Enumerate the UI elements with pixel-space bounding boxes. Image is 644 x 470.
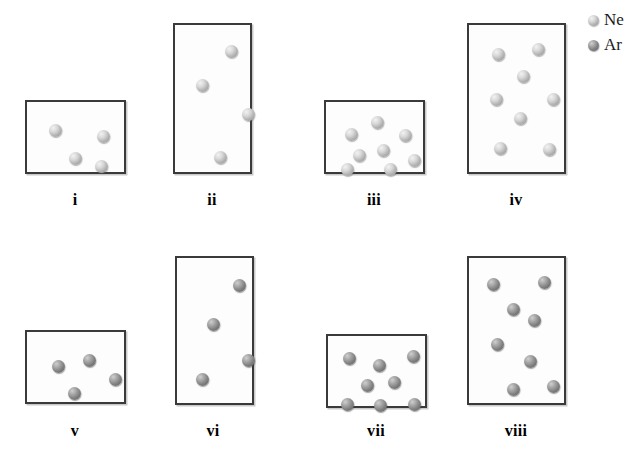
- particle-ar: [507, 303, 520, 316]
- particle-ne: [97, 130, 110, 143]
- particle-ne: [532, 43, 545, 56]
- particle-ar: [207, 318, 220, 331]
- particle-ar: [528, 314, 541, 327]
- particle-ne: [345, 128, 358, 141]
- particle-ne: [341, 163, 354, 176]
- particle-ne: [95, 160, 108, 173]
- particle-ar: [388, 376, 401, 389]
- particle-ar: [524, 355, 537, 368]
- container-label-ii: ii: [182, 192, 242, 208]
- particle-ar: [507, 383, 520, 396]
- container-label-iv: iv: [486, 192, 546, 208]
- particle-ar: [373, 359, 386, 372]
- legend-item-ne: Ne: [588, 10, 644, 35]
- particle-ar: [487, 278, 500, 291]
- particle-ar: [109, 373, 122, 386]
- container-vii: [326, 334, 427, 408]
- particle-ne: [225, 45, 238, 58]
- particle-ar: [547, 380, 560, 393]
- particle-ar: [83, 354, 96, 367]
- particle-ne: [377, 144, 390, 157]
- particle-diagram-canvas: iiiiiiivvviviiviii NeAr: [0, 0, 644, 470]
- particle-ne: [353, 149, 366, 162]
- container-label-viii: viii: [486, 423, 546, 439]
- particle-ne: [214, 151, 227, 164]
- legend-item-ar: Ar: [588, 35, 644, 60]
- legend-label-ar: Ar: [604, 35, 622, 55]
- container-ii: [173, 23, 252, 174]
- particle-ar: [538, 276, 551, 289]
- particle-ar: [343, 352, 356, 365]
- particle-ne: [69, 152, 82, 165]
- particle-ar: [52, 360, 65, 373]
- legend-swatch-ne-icon: [588, 15, 599, 26]
- particle-ne: [543, 143, 556, 156]
- particle-ne: [196, 79, 209, 92]
- particle-ne: [384, 163, 397, 176]
- container-label-i: i: [45, 192, 105, 208]
- container-i: [25, 100, 126, 174]
- particle-ar: [341, 398, 354, 411]
- particle-ar: [361, 379, 374, 392]
- particle-ne: [242, 108, 255, 121]
- legend: NeAr: [588, 10, 644, 60]
- particle-ne: [49, 124, 62, 137]
- container-viii: [467, 256, 566, 405]
- particle-ar: [68, 387, 81, 400]
- particle-ar: [242, 354, 255, 367]
- particle-ne: [514, 112, 527, 125]
- particle-ne: [371, 116, 384, 129]
- particle-ne: [517, 70, 530, 83]
- container-label-vii: vii: [346, 423, 406, 439]
- particle-ne: [490, 93, 503, 106]
- particle-ne: [494, 142, 507, 155]
- legend-swatch-ar-icon: [588, 40, 599, 51]
- particle-ar: [233, 279, 246, 292]
- particle-ne: [492, 48, 505, 61]
- particle-ar: [374, 399, 387, 412]
- legend-label-ne: Ne: [604, 10, 624, 30]
- particle-ne: [547, 93, 560, 106]
- container-iii: [324, 100, 425, 174]
- particle-ar: [408, 398, 421, 411]
- particle-ar: [196, 373, 209, 386]
- container-iv: [467, 23, 566, 174]
- particle-ar: [407, 350, 420, 363]
- particle-ne: [399, 129, 412, 142]
- container-label-iii: iii: [344, 192, 404, 208]
- particle-ar: [491, 338, 504, 351]
- particle-ne: [408, 154, 421, 167]
- container-label-v: v: [45, 423, 105, 439]
- container-label-vi: vi: [183, 423, 243, 439]
- container-vi: [175, 256, 254, 405]
- container-v: [25, 330, 126, 404]
